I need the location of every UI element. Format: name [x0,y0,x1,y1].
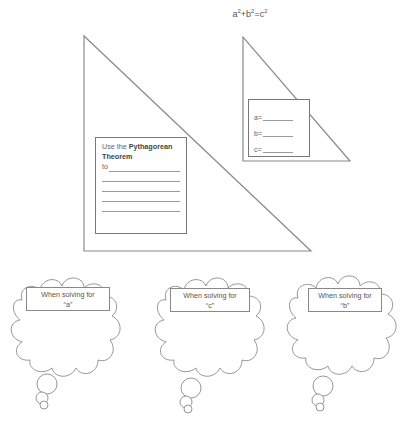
cloud-c-line2: “c” [171,301,249,311]
field-a-blank[interactable] [263,112,293,121]
side-values-box: a= b= c= [248,99,310,157]
instructions-prefix: Use the [102,142,129,151]
field-b-blank[interactable] [263,128,293,137]
field-c[interactable]: c= [254,137,304,153]
field-b-label: b= [254,130,262,137]
field-b[interactable]: b= [254,121,304,137]
cloud-c-line1: When solving for [171,291,249,301]
to-label: to [102,162,108,172]
blank-line-3[interactable] [102,193,180,202]
to-blank[interactable] [109,163,180,172]
worksheet-drawing [0,0,420,435]
blank-line-4[interactable] [102,203,180,212]
cloud-b-line2: “b” [309,301,381,311]
cloud-b-line1: When solving for [309,291,381,301]
cloud-a-line1: When solving for [27,290,109,300]
blank-line-2[interactable] [102,183,180,192]
instructions-text: Use the Pythagorean Theorem [102,142,180,162]
cloud-a-label: When solving for “a” [26,287,110,311]
cloud-a-line2: “a” [27,300,109,310]
field-c-blank[interactable] [263,144,293,153]
field-c-label: c= [254,146,262,153]
cloud-c-label: When solving for “c” [170,288,250,312]
blank-line-1[interactable] [102,173,180,182]
pythagorean-instructions-box: Use the Pythagorean Theorem to [95,137,187,234]
field-a-label: a= [254,114,262,121]
to-line[interactable]: to [102,162,180,172]
field-a[interactable]: a= [254,105,304,121]
cloud-b-label: When solving for “b” [308,288,382,312]
